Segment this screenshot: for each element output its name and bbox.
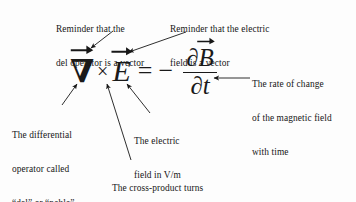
annotation-rate-of-change-of-b: The rate of change of the magnetic field… — [252, 57, 332, 180]
annotation-differential-operator-del: The differential operator called “del” o… — [12, 108, 74, 202]
annotation-reminder-del-is-vector: Reminder that the del operator is a vect… — [56, 2, 144, 92]
annotation-cross-product-curl: The cross-product turns the del operator… — [112, 161, 204, 202]
figure-canvas: ∇ × E = − ∂ B ∂t Reminder that the del o… — [0, 0, 356, 202]
